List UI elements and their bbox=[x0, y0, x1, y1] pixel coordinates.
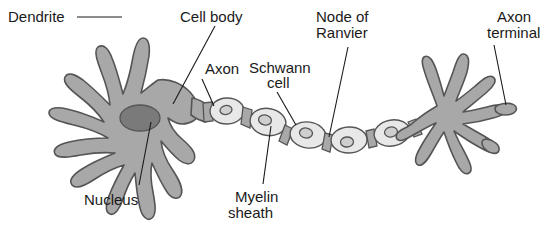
leader-axon-terminal bbox=[494, 45, 506, 105]
label-cell-body: Cell body bbox=[180, 8, 243, 25]
label-axon-terminal-line1: Axon bbox=[497, 8, 531, 25]
schwann-cell-nucleus bbox=[340, 137, 354, 148]
label-schwann-cell-line2: cell bbox=[267, 74, 290, 91]
label-node-of-ranvier-line2: Ranvier bbox=[316, 24, 368, 41]
label-axon: Axon bbox=[205, 60, 239, 77]
axon-terminal-arbor bbox=[396, 54, 516, 174]
soma-nucleus bbox=[120, 105, 160, 131]
label-myelin-sheath-line1: Myelin bbox=[235, 188, 278, 205]
label-myelin-sheath-line2: sheath bbox=[228, 204, 273, 221]
myelinated-axon bbox=[203, 97, 422, 153]
label-dendrite: Dendrite bbox=[8, 8, 65, 25]
label-axon-terminal-line2: terminal bbox=[487, 24, 540, 41]
neuron-diagram: Dendrite Cell body Axon Schwann cell Nod… bbox=[0, 0, 543, 233]
axon-terminal-bouton bbox=[482, 139, 499, 153]
axon-terminal-shape bbox=[396, 54, 506, 174]
label-nucleus: Nucleus bbox=[84, 191, 138, 208]
leader-node-of-ranvier bbox=[329, 47, 348, 137]
label-node-of-ranvier-line1: Node of bbox=[316, 8, 369, 25]
neuron-diagram-canvas: Dendrite Cell body Axon Schwann cell Nod… bbox=[0, 0, 543, 233]
